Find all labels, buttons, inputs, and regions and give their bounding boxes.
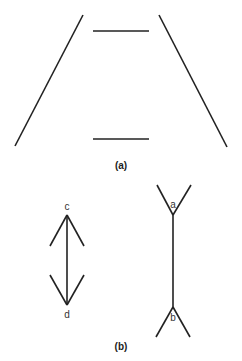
fin-c-left [50, 215, 67, 246]
label-d: d [64, 309, 70, 320]
label-b: b [170, 312, 176, 323]
muller-lyer-arrow-shaft [50, 215, 84, 305]
illusion-figure: (a) c d a b (b) [0, 0, 242, 361]
caption-a: (a) [115, 160, 127, 171]
right-converging-line [159, 15, 227, 147]
ponzo-illusion [15, 15, 227, 147]
fin-c-right [67, 215, 84, 246]
left-converging-line [15, 15, 83, 146]
fin-d-right [67, 275, 84, 305]
caption-b: (b) [115, 341, 128, 352]
label-c: c [65, 201, 70, 212]
fin-d-left [50, 275, 67, 305]
label-a: a [170, 199, 176, 210]
